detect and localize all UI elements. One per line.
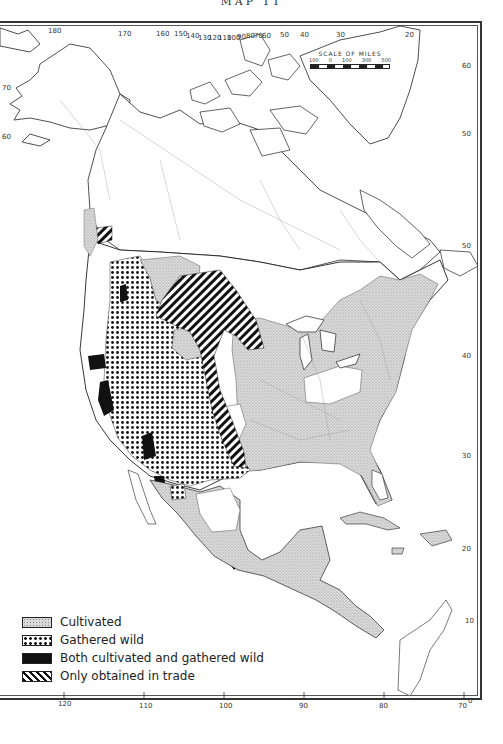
longitude-label: 80 (379, 702, 388, 710)
latitude-label: 70 (2, 84, 11, 92)
scale-of-miles: SCALE OF MILES 100 0 100 300 500 (305, 50, 395, 69)
caribbean-islands (340, 512, 452, 554)
scale-label: 300 (362, 57, 372, 63)
latitude-label: 50 (462, 130, 471, 138)
landmass-greenland (300, 26, 420, 144)
scale-label: 100 (342, 57, 352, 63)
longitude-label: 110 (139, 702, 152, 710)
latitude-label: 50 (462, 242, 471, 250)
legend-item-both: Both cultivated and gathered wild (22, 649, 264, 667)
longitude-label: 30 (336, 31, 345, 39)
region-gathered-wild-sonora (170, 484, 186, 500)
legend-item-cultivated: Cultivated (22, 613, 264, 631)
scale-label: 500 (381, 57, 391, 63)
solid-black-swatch-icon (22, 653, 52, 664)
latitude-label: 0 (468, 697, 472, 705)
scale-labels: 100 0 100 300 500 (305, 57, 395, 63)
legend-item-trade: Only obtained in trade (22, 667, 264, 685)
landmass-south-america (398, 600, 452, 696)
longitude-label: 60 (262, 32, 271, 40)
longitude-label: 50 (280, 31, 289, 39)
latitude-label: 60 (462, 62, 471, 70)
latitude-label: 30 (462, 452, 471, 460)
scale-bar (310, 64, 390, 69)
longitude-label: 100 (219, 702, 232, 710)
latitude-label: 60 (2, 133, 11, 141)
longitude-label: 170 (118, 30, 131, 38)
map-legend: Cultivated Gathered wild Both cultivated… (22, 613, 264, 685)
fine-stipple-swatch-icon (22, 617, 52, 628)
longitude-label: 160 (156, 30, 169, 38)
longitude-label: 20 (405, 31, 414, 39)
longitude-label: 70 (458, 702, 467, 710)
longitude-label: 40 (300, 31, 309, 39)
longitude-label: 180 (48, 27, 61, 35)
longitude-label: 90 (299, 702, 308, 710)
coarse-dots-swatch-icon (22, 635, 52, 646)
landmass-baja (128, 470, 156, 524)
latitude-label: 40 (462, 352, 471, 360)
scale-label: 0 (329, 57, 332, 63)
diagonal-hatch-swatch-icon (22, 671, 52, 682)
scale-label: 100 (309, 57, 319, 63)
latitude-label: 20 (462, 545, 471, 553)
latitude-label: 10 (465, 617, 474, 625)
legend-item-gathered-wild: Gathered wild (22, 631, 264, 649)
longitude-label: 90 (237, 33, 246, 41)
scale-title: SCALE OF MILES (305, 50, 395, 57)
legend-label: Both cultivated and gathered wild (60, 651, 264, 665)
legend-label: Only obtained in trade (60, 669, 195, 683)
legend-label: Gathered wild (60, 633, 144, 647)
legend-label: Cultivated (60, 615, 122, 629)
longitude-label: 120 (58, 700, 71, 708)
